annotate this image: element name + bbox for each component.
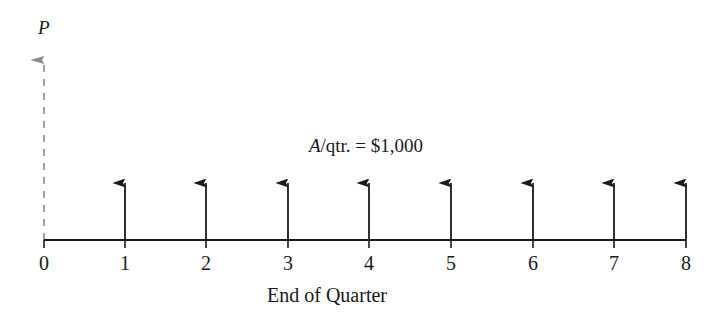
cash-flow-diagram: P A/qtr. = $1,000 0 1 2 3 4 5 6 7 8 End … <box>0 0 727 317</box>
x-tick-label-6: 6 <box>528 253 538 273</box>
annuity-symbol: A <box>309 135 321 156</box>
x-tick-label-0: 0 <box>39 253 49 273</box>
x-tick-label-1: 1 <box>120 253 130 273</box>
cash-flow-arrows <box>125 183 686 240</box>
vertical-axis-label: P <box>38 18 50 37</box>
annuity-value: /qtr. = $1,000 <box>321 135 424 156</box>
x-axis-title: End of Quarter <box>267 285 387 305</box>
x-tick-label-2: 2 <box>201 253 211 273</box>
annuity-annotation: A/qtr. = $1,000 <box>309 136 423 155</box>
horizontal-axis <box>44 240 686 248</box>
x-tick-label-8: 8 <box>681 253 691 273</box>
x-tick-label-4: 4 <box>364 253 374 273</box>
x-tick-label-7: 7 <box>609 253 619 273</box>
x-tick-label-5: 5 <box>446 253 456 273</box>
x-tick-label-3: 3 <box>283 253 293 273</box>
